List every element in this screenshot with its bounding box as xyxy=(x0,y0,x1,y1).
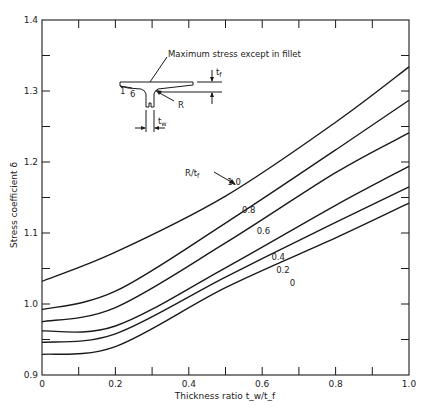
tw-label: tw xyxy=(158,116,167,128)
axis-ticks xyxy=(42,20,409,375)
t-section-diagram: 1 6 Maximum stress except in fillet R tf… xyxy=(120,49,301,132)
curve-label: 0.8 xyxy=(242,205,256,215)
x-tick-label: 0.4 xyxy=(182,379,197,389)
tf-label: tf xyxy=(216,67,222,79)
y-tick-label: 1.1 xyxy=(24,228,38,238)
curve-r-tf-0 xyxy=(42,203,409,354)
x-tick-label: 0.2 xyxy=(108,379,122,389)
y-tick-label: 1.2 xyxy=(24,157,38,167)
tf-arrow-bottom-head xyxy=(210,92,214,97)
y-tick-label: 1.0 xyxy=(24,299,39,309)
curve-r-tf-0-6 xyxy=(42,133,409,322)
y-tick-label: 0.9 xyxy=(24,370,39,380)
legend-title: R/tf xyxy=(185,168,200,180)
curves xyxy=(42,67,409,355)
stress-coefficient-chart: 1.00.80.60.40.20 00.20.40.60.81.00.91.01… xyxy=(0,0,425,409)
tf-arrow-top-head xyxy=(210,77,214,82)
y-axis-title: Stress coefficient δ xyxy=(9,162,19,248)
x-axis-title: t_w Thickness ratio t_w/t_f xyxy=(174,391,276,401)
max-stress-pointer xyxy=(150,57,167,82)
x-tick-label: 0.8 xyxy=(328,379,343,389)
curve-r-tf-0-2 xyxy=(42,187,409,342)
x-tick-label: 1.0 xyxy=(402,379,417,389)
curve-label: 0.4 xyxy=(271,252,285,262)
tw-arrow-right-head xyxy=(154,126,159,130)
y-tick-label: 1.3 xyxy=(24,86,38,96)
slope-run-label: 6 xyxy=(130,89,135,99)
y-tick-label: 1.4 xyxy=(24,15,39,25)
curve-label: 1.0 xyxy=(227,177,241,187)
curve-r-tf-0-8 xyxy=(42,100,409,309)
slope-rise-label: 1 xyxy=(120,86,125,96)
x-tick-label: 0.6 xyxy=(255,379,270,389)
radius-label: R xyxy=(178,100,184,110)
plot-frame xyxy=(42,20,409,375)
tw-arrow-left-head xyxy=(141,126,146,130)
x-tick-label: 0 xyxy=(39,379,45,389)
xlabel-text: Thickness ratio t_w/t_f xyxy=(174,391,276,401)
curve-label: 0 xyxy=(290,278,295,288)
curve-r-tf-1-0 xyxy=(42,67,409,281)
max-stress-label: Maximum stress except in fillet xyxy=(168,49,301,59)
curve-label: 0.6 xyxy=(257,226,271,236)
curve-r-tf-0-4 xyxy=(42,166,409,332)
curve-label: 0.2 xyxy=(276,265,290,275)
